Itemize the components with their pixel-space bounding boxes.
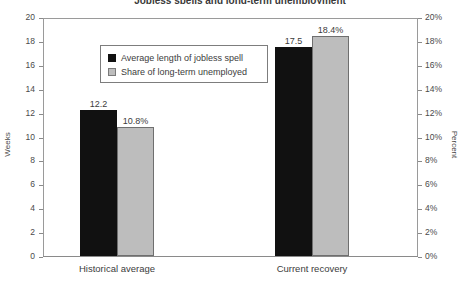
legend-swatch-dark-icon	[108, 54, 116, 62]
left-tick-label-text: 10	[26, 133, 35, 142]
left-tick-label: 2	[7, 228, 35, 238]
left-tick-mark	[39, 114, 43, 115]
right-tick-label: 18%	[425, 37, 457, 47]
left-tick-mark	[39, 90, 43, 91]
right-tick-label: 12%	[425, 109, 457, 119]
left-tick-mark	[39, 138, 43, 139]
chart-title: Jobless spells and long-term unemploymen…	[120, 0, 360, 4]
x-axis-category-label: Current recovery	[252, 263, 372, 274]
left-tick-mark	[39, 233, 43, 234]
right-tick-mark	[418, 161, 422, 162]
left-tick-mark	[39, 161, 43, 162]
chart-legend: Average length of jobless spell Share of…	[100, 45, 268, 83]
left-tick-label: 20	[7, 13, 35, 23]
right-tick-label: 0%	[425, 252, 457, 262]
bar-value-label: 10.8%	[111, 116, 160, 126]
left-tick-mark	[39, 42, 43, 43]
legend-item-1: Share of long-term unemployed	[108, 65, 260, 79]
right-tick-label-text: 10%	[425, 133, 442, 142]
left-tick-label: 18	[7, 37, 35, 47]
right-tick-label-text: 6%	[425, 180, 437, 189]
right-tick-label-text: 4%	[425, 204, 437, 213]
left-tick-label-text: 14	[26, 85, 35, 94]
left-tick-label-text: 20	[26, 13, 35, 22]
left-tick-label: 4	[7, 204, 35, 214]
bar-value-label: 12.2	[74, 99, 123, 109]
left-axis-line	[43, 18, 44, 257]
left-tick-mark	[39, 257, 43, 258]
left-tick-label-text: 8	[30, 156, 35, 165]
right-tick-label: 10%	[425, 133, 457, 143]
x-axis-category-label: Historical average	[57, 263, 177, 274]
bar-value-label: 17.5	[269, 36, 318, 46]
right-tick-label-text: 18%	[425, 37, 442, 46]
legend-label-1: Share of long-term unemployed	[121, 67, 247, 77]
left-tick-label: 0	[7, 252, 35, 262]
right-tick-mark	[418, 209, 422, 210]
right-tick-label-text: 2%	[425, 228, 437, 237]
left-tick-label-text: 0	[30, 252, 35, 261]
plot-top-border	[43, 18, 418, 19]
left-tick-label: 8	[7, 156, 35, 166]
right-tick-mark	[418, 90, 422, 91]
right-tick-label: 20%	[425, 13, 457, 23]
left-tick-label: 6	[7, 180, 35, 190]
left-tick-label-text: 2	[30, 228, 35, 237]
right-tick-mark	[418, 114, 422, 115]
right-tick-label: 14%	[425, 85, 457, 95]
right-tick-label-text: 8%	[425, 156, 437, 165]
right-tick-label-text: 0%	[425, 252, 437, 261]
right-tick-label: 2%	[425, 228, 457, 238]
bottom-axis-line	[43, 256, 418, 257]
left-tick-mark	[39, 18, 43, 19]
left-tick-label: 12	[7, 109, 35, 119]
bar-long-term-share[interactable]	[117, 127, 154, 256]
left-tick-label-text: 6	[30, 180, 35, 189]
right-tick-label: 16%	[425, 61, 457, 71]
legend-item-0: Average length of jobless spell	[108, 51, 260, 65]
left-tick-label-text: 16	[26, 61, 35, 70]
bar-jobless-spell[interactable]	[275, 47, 312, 256]
right-tick-mark	[418, 233, 422, 234]
left-tick-label: 10	[7, 133, 35, 143]
left-tick-mark	[39, 66, 43, 67]
right-tick-mark	[418, 18, 422, 19]
right-tick-label: 4%	[425, 204, 457, 214]
plot-area: 20181614121086420 20%18%16%14%12%10%8%6%…	[43, 18, 418, 257]
left-tick-mark	[39, 209, 43, 210]
right-tick-mark	[418, 257, 422, 258]
left-tick-label-text: 4	[30, 204, 35, 213]
left-tick-mark	[39, 185, 43, 186]
left-tick-label-text: 12	[26, 109, 35, 118]
right-tick-label-text: 20%	[425, 13, 442, 22]
right-tick-label: 8%	[425, 156, 457, 166]
bar-value-label: 18.4%	[306, 25, 355, 35]
left-tick-label: 16	[7, 61, 35, 71]
legend-label-0: Average length of jobless spell	[121, 53, 243, 63]
right-tick-mark	[418, 66, 422, 67]
bar-long-term-share[interactable]	[312, 36, 349, 256]
bar-jobless-spell[interactable]	[80, 110, 117, 256]
right-tick-label-text: 14%	[425, 85, 442, 94]
right-tick-label: 6%	[425, 180, 457, 190]
right-tick-label-text: 12%	[425, 109, 442, 118]
left-tick-label-text: 18	[26, 37, 35, 46]
left-tick-label: 14	[7, 85, 35, 95]
right-tick-mark	[418, 138, 422, 139]
right-tick-mark	[418, 42, 422, 43]
right-tick-mark	[418, 185, 422, 186]
right-tick-label-text: 16%	[425, 61, 442, 70]
legend-swatch-light-icon	[108, 68, 116, 76]
